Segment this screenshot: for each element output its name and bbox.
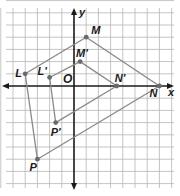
label-m: M <box>91 24 101 36</box>
label-p: P <box>29 161 37 173</box>
label-n: N <box>149 87 158 99</box>
point-m <box>84 35 89 40</box>
point-m-prime <box>78 59 83 64</box>
polygon-image <box>50 62 117 123</box>
y-axis-label: y <box>78 6 86 18</box>
label-n-prime: N' <box>115 72 126 84</box>
grid-lines <box>1 1 174 188</box>
y-axis-up-arrow-icon <box>71 8 77 15</box>
axes <box>2 8 174 190</box>
coordinate-plane: LMNPL'M'N'P' x y O <box>0 0 180 196</box>
point-n <box>157 84 162 89</box>
label-l: L <box>15 67 22 79</box>
x-axis-label: x <box>167 86 175 98</box>
y-axis-down-arrow-icon <box>71 183 77 190</box>
point-l <box>23 71 28 76</box>
label-l-prime: L' <box>38 65 48 77</box>
coordinate-plane-diagram: LMNPL'M'N'P' x y O <box>0 0 180 196</box>
x-axis-left-arrow-icon <box>2 83 9 89</box>
point-n-prime <box>114 84 119 89</box>
point-l-prime <box>47 75 52 80</box>
origin-label: O <box>63 72 73 86</box>
label-p-prime: P' <box>51 126 61 138</box>
point-p-prime <box>53 120 58 125</box>
label-m-prime: M' <box>76 47 88 59</box>
